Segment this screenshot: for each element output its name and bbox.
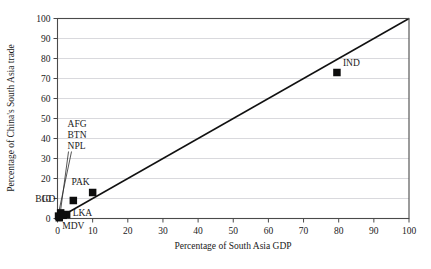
callout-label-block: AFGBTNNPL [68,119,87,151]
scatter-chart-figure: 0102030405060708090100 01020304050607080… [0,0,431,269]
y-tick-label-80: 80 [41,54,51,64]
leader-line-afg [61,152,69,210]
x-tick-label-80: 80 [334,226,344,236]
gridlines-group [58,19,410,199]
y-tick-label-50: 50 [41,114,51,124]
chart-canvas: 0102030405060708090100 01020304050607080… [0,0,431,269]
callout-label-npl: NPL [68,141,86,151]
y-tick-label-90: 90 [41,34,51,44]
data-label-pak: PAK [72,177,90,187]
data-label-ind: IND [343,58,360,68]
x-axis-ticks: 0102030405060708090100 [55,219,416,236]
data-marker-ind [333,69,341,77]
x-tick-label-90: 90 [369,226,379,236]
x-tick-label-60: 60 [264,226,274,236]
y-tick-label-100: 100 [36,14,51,24]
y-tick-label-0: 0 [46,214,51,224]
data-marker-npl [59,212,66,220]
data-label-mdv: MDV [62,221,84,231]
x-tick-label-0: 0 [55,226,60,236]
y-tick-label-20: 20 [41,174,51,184]
y-tick-label-40: 40 [41,134,51,144]
x-tick-label-100: 100 [402,226,417,236]
data-marker-pak [89,189,97,197]
x-axis-title: Percentage of South Asia GDP [174,241,291,251]
y-tick-label-30: 30 [41,154,51,164]
callout-label-btn: BTN [68,130,87,140]
x-tick-label-20: 20 [123,226,133,236]
x-tick-label-50: 50 [229,226,239,236]
x-tick-label-70: 70 [299,226,309,236]
x-tick-label-40: 40 [193,226,203,236]
y-tick-label-60: 60 [41,94,51,104]
data-label-bgd: BGD [35,194,55,204]
y-tick-label-70: 70 [41,74,51,84]
data-marker-bgd [70,197,78,205]
x-tick-label-10: 10 [88,226,98,236]
y-axis-title: Percentage of China's South Asia trade [6,44,16,192]
data-label-lka: LKA [73,208,93,218]
x-tick-label-30: 30 [158,226,168,236]
y-axis-ticks: 0102030405060708090100 [36,14,57,224]
callout-label-afg: AFG [68,119,87,129]
